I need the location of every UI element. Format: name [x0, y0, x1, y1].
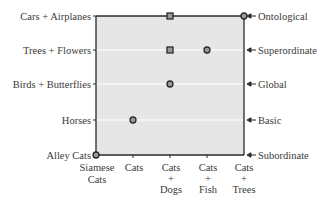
y-label-basic: Basic: [258, 115, 282, 126]
x-label-siamese: Siamese: [80, 162, 115, 173]
circle-marker: [93, 152, 99, 158]
square-marker: [167, 47, 173, 53]
y-axis-right: Ontological Superordinate Global Basic S…: [247, 11, 317, 161]
arrow-left-icon: [247, 14, 256, 157]
x-label-cats-trees-plus: +: [241, 173, 247, 184]
x-label-cats-fish-1: Cats: [199, 162, 218, 173]
x-label-cats-dogs-1: Cats: [162, 162, 181, 173]
x-label-cats-trees-1: Cats: [235, 162, 254, 173]
x-label-cats: Cats: [125, 162, 144, 173]
x-axis-labels: Siamese Cats Cats Cats + Dogs Cats + Fis…: [80, 162, 256, 195]
y-label-cars-airplanes: Cars + Airplanes: [20, 11, 91, 22]
x-label-cats-fish-plus: +: [205, 173, 211, 184]
circle-marker: [130, 117, 136, 123]
scatter-chart: Cars + Airplanes Trees + Flowers Birds +…: [0, 0, 328, 200]
circle-marker: [204, 47, 210, 53]
y-label-subordinate: Subordinate: [258, 150, 309, 161]
y-label-ontological: Ontological: [258, 11, 308, 22]
x-label-cats-fish-2: Fish: [199, 184, 218, 195]
circle-marker: [167, 81, 173, 87]
y-label-alley-cats: Alley Cats: [46, 150, 91, 161]
x-label-siamese-cats: Cats: [88, 174, 107, 185]
x-label-cats-dogs-2: Dogs: [160, 184, 182, 195]
circle-marker: [241, 13, 247, 19]
square-marker: [167, 13, 173, 19]
y-axis-left-labels: Cars + Airplanes Trees + Flowers Birds +…: [13, 11, 91, 161]
y-label-global: Global: [258, 79, 287, 90]
y-label-trees-flowers: Trees + Flowers: [23, 45, 91, 56]
y-label-superordinate: Superordinate: [258, 45, 317, 56]
x-label-cats-trees-2: Trees: [233, 184, 256, 195]
y-label-birds-butterflies: Birds + Butterflies: [13, 79, 91, 90]
x-label-cats-dogs-plus: +: [168, 173, 174, 184]
y-label-horses: Horses: [62, 115, 91, 126]
